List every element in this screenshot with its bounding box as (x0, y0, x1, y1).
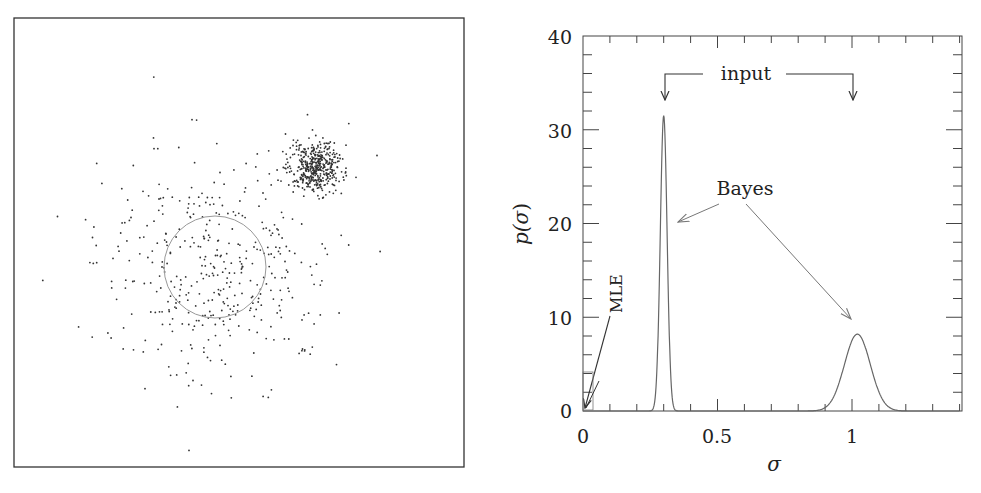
scatter-point (345, 144, 347, 146)
scatter-point (334, 154, 336, 156)
scatter-point (174, 286, 176, 288)
scatter-point (279, 289, 281, 291)
scatter-point (329, 152, 331, 154)
scatter-point (234, 272, 236, 274)
scatter-points (42, 76, 381, 451)
scatter-point (78, 326, 80, 328)
scatter-point (205, 202, 207, 204)
scatter-point (237, 304, 239, 306)
scatter-point (313, 161, 315, 163)
scatter-point (187, 299, 189, 301)
scatter-point (239, 200, 241, 202)
scatter-point (238, 212, 240, 214)
scatter-point (199, 293, 201, 295)
scatter-point (172, 318, 174, 320)
scatter-point (150, 282, 152, 284)
scatter-point (132, 165, 134, 167)
scatter-point (188, 197, 190, 199)
scatter-point (318, 181, 320, 183)
scatter-point (323, 184, 325, 186)
scatter-point (286, 172, 288, 174)
scatter-point (169, 323, 171, 325)
scatter-point (242, 215, 244, 217)
scatter-point (191, 237, 193, 239)
scatter-point (321, 151, 323, 153)
scatter-point (233, 211, 235, 213)
scatter-point (208, 275, 210, 277)
scatter-point (329, 175, 331, 177)
scatter-point (229, 286, 231, 288)
scatter-point (152, 262, 154, 264)
scatter-point (338, 312, 340, 314)
scatter-point (309, 158, 311, 160)
scatter-point (287, 162, 289, 164)
scatter-point (324, 174, 326, 176)
scatter-point (308, 137, 310, 139)
scatter-point (316, 263, 318, 265)
scatter-point (304, 189, 306, 191)
scatter-point (329, 146, 331, 148)
scatter-point (222, 320, 224, 322)
scatter-point (348, 244, 350, 246)
scatter-point (305, 160, 307, 162)
scatter-point (196, 320, 198, 322)
scatter-point (301, 262, 303, 264)
scatter-point (286, 269, 288, 271)
scatter-point (179, 246, 181, 248)
scatter-point (311, 274, 313, 276)
scatter-point (335, 177, 337, 179)
ytick-40: 40 (548, 26, 572, 48)
scatter-point (320, 186, 322, 188)
scatter-point (101, 183, 103, 185)
scatter-point (345, 175, 347, 177)
scatter-point (308, 177, 310, 179)
scatter-point (130, 217, 132, 219)
scatter-point (289, 147, 291, 149)
scatter-point (142, 351, 144, 353)
scatter-point (329, 178, 331, 180)
scatter-point (209, 236, 211, 238)
scatter-point (248, 329, 250, 331)
scatter-point (322, 168, 324, 170)
scatter-point (313, 146, 315, 148)
scatter-point (289, 171, 291, 173)
scatter-point (233, 305, 235, 307)
scatter-point (318, 169, 320, 171)
scatter-point (219, 294, 221, 296)
scatter-point (304, 349, 306, 351)
scatter-point (322, 177, 324, 179)
scatter-point (185, 276, 187, 278)
scatter-point (178, 147, 180, 149)
scatter-point (317, 195, 319, 197)
scatter-point (202, 324, 204, 326)
scatter-point (96, 163, 98, 165)
scatter-point (325, 162, 327, 164)
scatter-point (177, 406, 179, 408)
y-axis-p: p( (509, 223, 533, 245)
scatter-point (319, 284, 321, 286)
scatter-point (122, 348, 124, 350)
scatter-point (274, 277, 276, 279)
scatter-point (215, 255, 217, 257)
ytick-30: 30 (548, 120, 572, 142)
mle-arrow-2 (586, 381, 599, 408)
scatter-point (121, 222, 123, 224)
scatter-point (266, 283, 268, 285)
scatter-point (325, 194, 327, 196)
scatter-point (211, 197, 213, 199)
scatter-point (257, 180, 259, 182)
scatter-point (289, 165, 291, 167)
scatter-point (309, 186, 311, 188)
scatter-frame (14, 18, 464, 467)
ytick-0: 0 (560, 400, 572, 422)
scatter-point (284, 261, 286, 263)
scatter-point (313, 150, 315, 152)
scatter-point (317, 152, 319, 154)
scatter-point (277, 229, 279, 231)
scatter-point (318, 198, 320, 200)
scatter-point (324, 147, 326, 149)
scatter-point (302, 176, 304, 178)
scatter-point (318, 155, 320, 157)
scatter-point (199, 257, 201, 259)
scatter-point (302, 164, 304, 166)
